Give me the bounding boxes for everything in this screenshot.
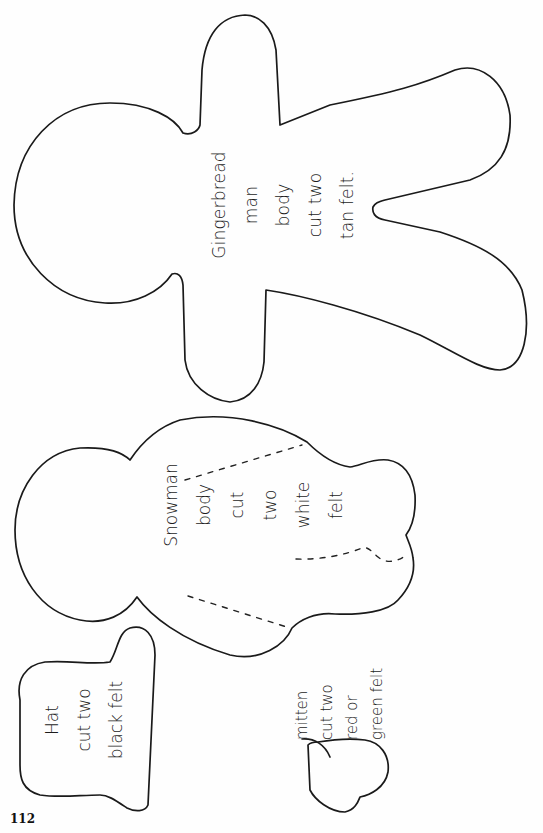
hat-label-line: cut two [68,645,100,795]
hat-label-line: black felt [100,645,132,795]
snowman-label-line: cut [221,425,254,585]
mitten-outline [308,739,388,812]
snowman-label-line: Snowman [155,425,188,585]
mitten-label: mitten cut two red or green felt [290,620,390,740]
mitten-label-line: red or [340,620,365,740]
hat-label: Hat cut two black felt [36,645,132,795]
snowman-dashed-line-bottom [188,596,290,628]
gingerbread-label-line: tan felt. [331,120,363,290]
snowman-label-line: two [254,425,287,585]
mitten-label-line: mitten [290,620,315,740]
gingerbread-label: Gingerbread man body cut two tan felt. [203,120,363,290]
pattern-page: Gingerbread man body cut two tan felt. S… [0,0,543,833]
snowman-label-line: white [287,425,320,585]
snowman-label-line: body [188,425,221,585]
snowman-label-line: felt [320,425,353,585]
hat-label-line: Hat [36,645,68,795]
gingerbread-label-line: cut two [299,120,331,290]
gingerbread-label-line: Gingerbread [203,120,235,290]
snowman-label: Snowman body cut two white felt [155,425,353,585]
gingerbread-label-line: body [267,120,299,290]
gingerbread-label-line: man [235,120,267,290]
mitten-label-line: cut two [315,620,340,740]
page-number: 112 [10,812,35,826]
mitten-label-line: green felt [365,620,390,740]
